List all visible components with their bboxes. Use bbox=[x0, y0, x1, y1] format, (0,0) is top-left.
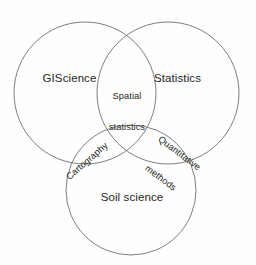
venn-diagram-canvas bbox=[0, 0, 256, 265]
circle-statistics bbox=[97, 22, 239, 164]
circle-giscience bbox=[14, 22, 156, 164]
venn-diagram-figure: GIScience Statistics Soil science Spatia… bbox=[0, 0, 256, 265]
circle-soil-science bbox=[66, 125, 196, 255]
